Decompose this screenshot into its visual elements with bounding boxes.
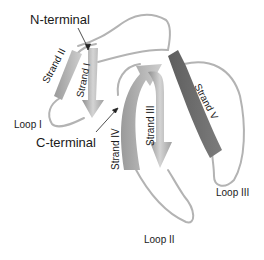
loop-2-label: Loop II [144,234,175,245]
loop-1-coil [49,98,84,126]
loop-3-coil [184,62,244,185]
loop-1-label: Loop I [14,119,42,130]
ribbon-svg: N-terminal C-terminal Strand II Strand I… [0,0,264,260]
strand-4-label: Strand IV [110,128,121,170]
protein-ribbon-diagram: N-terminal C-terminal Strand II Strand I… [0,0,264,260]
strand-3-label: Strand III [145,105,156,146]
n-terminal-label: N-terminal [30,12,90,27]
loop-2-coil [135,168,193,222]
middle-coil [98,50,168,62]
loop-3-label: Loop III [216,187,249,198]
c-terminal-label: C-terminal [36,135,96,150]
c-terminal-arrowhead [113,108,119,113]
